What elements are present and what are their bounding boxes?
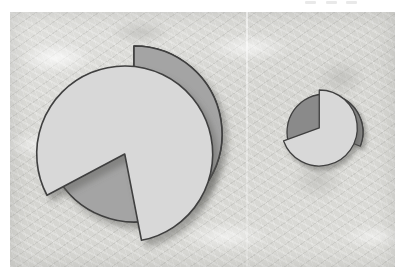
small-pie-chart xyxy=(0,0,405,279)
figure-stage xyxy=(0,0,405,279)
small-pie-svg xyxy=(0,0,405,279)
